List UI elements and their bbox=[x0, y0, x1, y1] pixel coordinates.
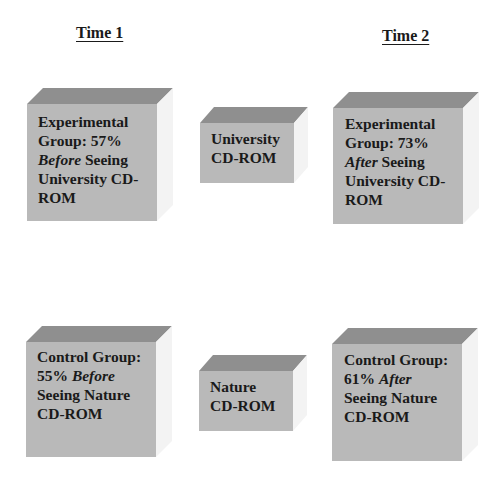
box-label-line: ROM bbox=[345, 190, 463, 209]
box-label: UniversityCD-ROM bbox=[200, 123, 294, 183]
box-label-line: Experimental bbox=[345, 114, 463, 133]
time-1-heading: Time 1 bbox=[76, 24, 123, 42]
box-label-line: Group: 57% bbox=[38, 131, 157, 150]
box-label-line: University CD- bbox=[38, 169, 157, 188]
box-label-line: After Seeing bbox=[345, 152, 463, 171]
box-label: Control Group:55% BeforeSeeing NatureCD-… bbox=[26, 342, 156, 457]
nature-cdrom-box: NatureCD-ROM bbox=[199, 355, 307, 431]
label-text: Group: 57% bbox=[38, 132, 122, 149]
box-label-line: Control Group: bbox=[37, 347, 156, 366]
label-emphasis: After bbox=[345, 153, 378, 170]
label-text: Nature bbox=[210, 378, 256, 395]
label-text: University bbox=[211, 130, 280, 147]
label-text: CD-ROM bbox=[211, 149, 276, 166]
box-top-face bbox=[200, 107, 308, 123]
label-text: University CD- bbox=[345, 172, 445, 189]
box-label-line: Nature bbox=[210, 377, 293, 396]
label-text: Experimental bbox=[38, 113, 128, 130]
box-side-face bbox=[463, 92, 479, 224]
experimental-after-box: ExperimentalGroup: 73%After SeeingUniver… bbox=[333, 92, 479, 224]
box-side-face bbox=[157, 88, 173, 221]
university-cdrom-box: UniversityCD-ROM bbox=[200, 107, 308, 183]
label-text: Seeing Nature bbox=[37, 386, 130, 403]
label-text: 55% bbox=[37, 367, 72, 384]
box-label-line: Group: 73% bbox=[345, 133, 463, 152]
box-label-line: Control Group: bbox=[344, 350, 462, 369]
box-label-line: ROM bbox=[38, 188, 157, 207]
box-label-line: Experimental bbox=[38, 112, 157, 131]
box-label-line: CD-ROM bbox=[210, 396, 293, 415]
box-top-face bbox=[199, 355, 307, 371]
box-side-face bbox=[462, 328, 478, 461]
box-label-line: Seeing Nature bbox=[37, 385, 156, 404]
box-top-face bbox=[26, 326, 172, 342]
box-label-line: 61% After bbox=[344, 369, 462, 388]
label-text: Seeing bbox=[378, 153, 425, 170]
box-label-line: Before Seeing bbox=[38, 150, 157, 169]
label-text: Group: 73% bbox=[345, 134, 429, 151]
box-label-line: University CD- bbox=[345, 171, 463, 190]
label-text: University CD- bbox=[38, 170, 138, 187]
box-top-face bbox=[332, 328, 478, 344]
box-side-face bbox=[156, 326, 172, 457]
box-label-line: CD-ROM bbox=[211, 148, 294, 167]
label-emphasis: Before bbox=[72, 367, 115, 384]
label-text: CD-ROM bbox=[210, 397, 275, 414]
box-label-line: CD-ROM bbox=[344, 407, 462, 426]
label-text: Experimental bbox=[345, 115, 435, 132]
box-label-line: University bbox=[211, 129, 294, 148]
label-emphasis: After bbox=[379, 370, 412, 387]
label-text: 61% bbox=[344, 370, 379, 387]
control-after-box: Control Group:61% AfterSeeing NatureCD-R… bbox=[332, 328, 478, 461]
label-text: Control Group: bbox=[344, 351, 448, 368]
box-top-face bbox=[27, 88, 173, 104]
box-label: ExperimentalGroup: 73%After SeeingUniver… bbox=[333, 108, 463, 224]
box-label-line: Seeing Nature bbox=[344, 388, 462, 407]
box-label-line: 55% Before bbox=[37, 366, 156, 385]
box-top-face bbox=[333, 92, 479, 108]
label-text: Seeing Nature bbox=[344, 389, 437, 406]
label-text: CD-ROM bbox=[344, 408, 409, 425]
label-text: Seeing bbox=[81, 151, 128, 168]
label-emphasis: Before bbox=[38, 151, 81, 168]
label-text: Control Group: bbox=[37, 348, 141, 365]
label-text: CD-ROM bbox=[37, 405, 102, 422]
control-before-box: Control Group:55% BeforeSeeing NatureCD-… bbox=[26, 326, 172, 457]
experimental-before-box: ExperimentalGroup: 57%Before SeeingUnive… bbox=[27, 88, 173, 221]
time-2-heading: Time 2 bbox=[382, 27, 429, 45]
box-label: Control Group:61% AfterSeeing NatureCD-R… bbox=[332, 344, 462, 461]
box-label: ExperimentalGroup: 57%Before SeeingUnive… bbox=[27, 104, 157, 221]
label-text: ROM bbox=[345, 191, 383, 208]
label-text: ROM bbox=[38, 189, 76, 206]
box-label-line: CD-ROM bbox=[37, 404, 156, 423]
box-label: NatureCD-ROM bbox=[199, 371, 293, 431]
